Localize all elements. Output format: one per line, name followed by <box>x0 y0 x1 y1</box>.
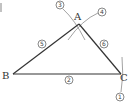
svg-text:2: 2 <box>67 76 71 83</box>
step-marker-2: 2 <box>65 76 73 84</box>
step-marker-6: 6 <box>100 40 108 48</box>
svg-text:5: 5 <box>40 40 44 47</box>
side-ac <box>79 24 121 74</box>
svg-text:6: 6 <box>102 40 106 47</box>
step-marker-3: 3 <box>56 1 64 9</box>
triangle <box>13 24 121 74</box>
svg-text:3: 3 <box>58 1 62 8</box>
construction-marks <box>63 9 123 92</box>
step-marker-1: 1 <box>116 93 124 101</box>
side-ab <box>13 24 79 74</box>
triangle-diagram: A B C 1 2 3 4 5 6 <box>0 0 129 105</box>
vertex-label-c: C <box>120 72 128 83</box>
vertex-label-b: B <box>2 70 9 81</box>
vertex-label-a: A <box>73 11 82 22</box>
step-marker-5: 5 <box>38 40 46 48</box>
svg-text:1: 1 <box>118 93 122 100</box>
step-marker-4: 4 <box>98 8 106 16</box>
svg-text:4: 4 <box>100 8 104 15</box>
